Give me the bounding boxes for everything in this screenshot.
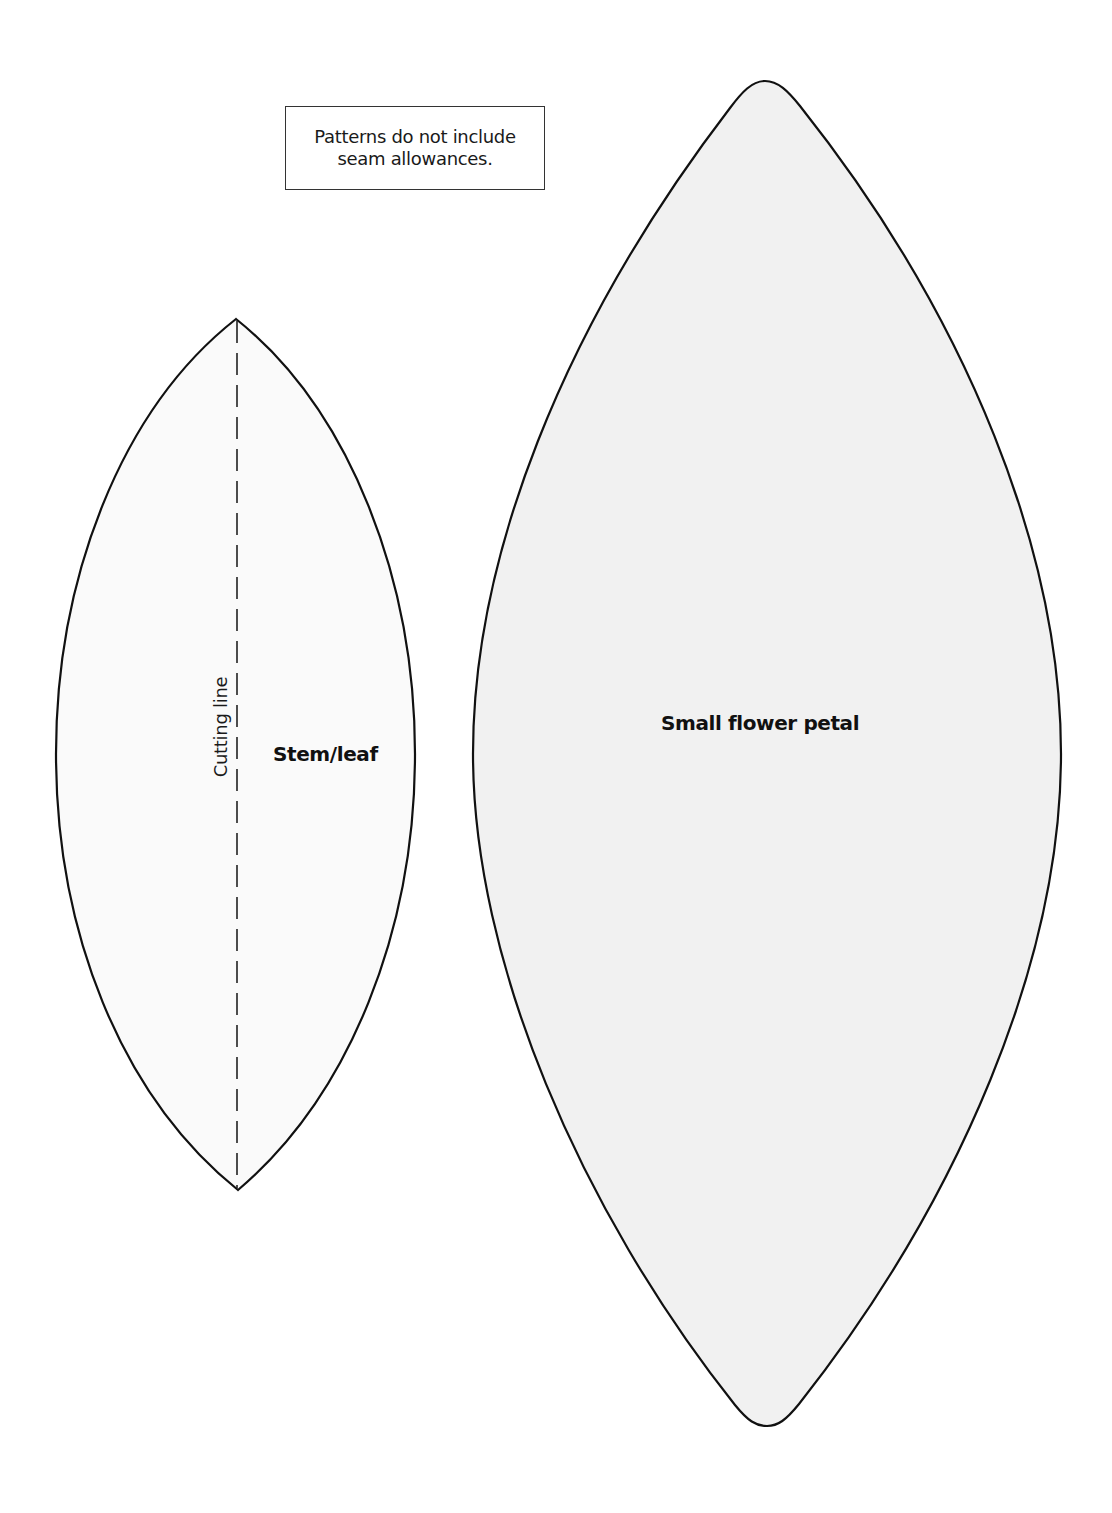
petal-outline [473, 81, 1061, 1426]
pattern-shapes [0, 0, 1112, 1513]
small-flower-petal-label: Small flower petal [661, 711, 859, 735]
seam-allowance-note: Patterns do not include seam allowances. [285, 106, 545, 190]
note-line-2: seam allowances. [337, 148, 492, 170]
note-line-1: Patterns do not include [314, 126, 516, 148]
stem-leaf-label: Stem/leaf [273, 742, 378, 766]
cutting-line-label: Cutting line [210, 677, 231, 778]
pattern-sheet: Patterns do not include seam allowances.… [0, 0, 1112, 1513]
